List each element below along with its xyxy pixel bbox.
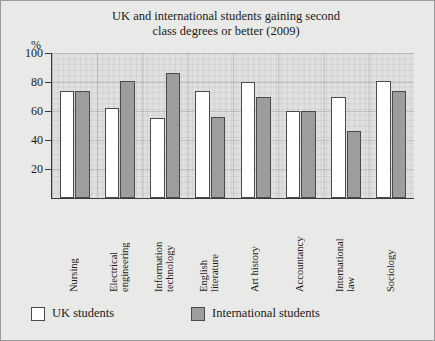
x-axis-label: International law <box>334 204 356 292</box>
bar <box>120 81 135 198</box>
y-axis-tick-label: 20 <box>3 162 43 177</box>
bar <box>286 111 301 198</box>
bar <box>105 108 120 198</box>
legend-label: UK students <box>52 306 114 321</box>
x-axis-label: Information technology <box>153 204 175 292</box>
bar <box>256 97 271 199</box>
bar-group <box>105 53 135 198</box>
bar <box>166 73 181 198</box>
bar <box>331 97 346 199</box>
bar-group <box>150 53 180 198</box>
chart-legend: UK studentsInternational students <box>1 306 435 328</box>
chart-title-line-1: UK and international students gaining se… <box>61 9 391 24</box>
bar <box>376 81 391 198</box>
bar-group <box>60 53 90 198</box>
x-axis-label: English literature <box>198 204 220 292</box>
bar-group <box>195 53 225 198</box>
bar <box>60 91 75 198</box>
bar <box>301 111 316 198</box>
y-axis-tick-label: 40 <box>3 133 43 148</box>
legend-item[interactable]: UK students <box>31 306 114 321</box>
chart-title-line-2: class degrees or better (2009) <box>61 24 391 39</box>
bar-group <box>286 53 316 198</box>
legend-swatch-icon <box>31 307 45 321</box>
x-axis-label: Accountancy <box>294 204 305 292</box>
plot-area <box>51 53 414 199</box>
x-axis-label: Electrical engineering <box>108 204 130 292</box>
legend-swatch-icon <box>191 307 205 321</box>
legend-item[interactable]: International students <box>191 306 320 321</box>
x-axis-label: Art history <box>249 204 260 292</box>
bar-group <box>376 53 406 198</box>
x-axis-label: Sociology <box>385 204 396 292</box>
bar <box>241 82 256 198</box>
bar <box>211 117 226 198</box>
bar <box>347 131 362 198</box>
chart-title: UK and international students gaining se… <box>61 9 391 38</box>
bar <box>392 91 407 198</box>
bar <box>195 91 210 198</box>
chart-figure: UK and international students gaining se… <box>0 0 435 341</box>
y-axis-tick-label: 80 <box>3 75 43 90</box>
y-axis-tick-label: 60 <box>3 104 43 119</box>
y-axis-tick-label: 100 <box>3 46 43 61</box>
legend-label: International students <box>212 306 320 321</box>
bar-group <box>331 53 361 198</box>
bar <box>150 118 165 198</box>
x-axis-label: Nursing <box>68 204 79 292</box>
bar <box>75 91 90 198</box>
bar-group <box>241 53 271 198</box>
